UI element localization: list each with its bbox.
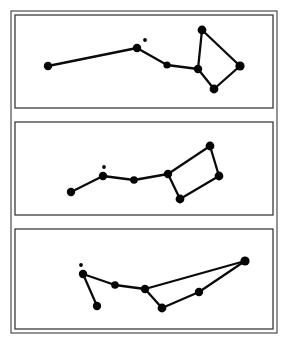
star-node-merak xyxy=(215,172,224,181)
star-node-alioth xyxy=(111,281,119,289)
star-companion-alcor xyxy=(102,165,106,169)
star-diagram-canvas xyxy=(0,0,289,348)
panels-group xyxy=(15,15,273,329)
star-panel-panel-middle xyxy=(15,122,273,215)
star-node-mizar xyxy=(79,270,87,278)
star-node-megrez xyxy=(164,170,172,178)
panel-border-panel-bottom xyxy=(15,229,273,329)
star-panel-panel-top xyxy=(15,15,273,108)
star-node-alkaid xyxy=(44,62,52,70)
star-node-mizar xyxy=(133,44,141,52)
star-node-phecda xyxy=(158,304,167,313)
star-node-dubhe xyxy=(206,142,215,151)
panel-border-panel-middle xyxy=(15,122,273,215)
star-node-megrez xyxy=(194,65,202,73)
star-node-dubhe xyxy=(240,256,249,265)
star-node-phecda xyxy=(210,85,219,94)
star-companion-alcor xyxy=(79,263,83,267)
star-node-alioth xyxy=(163,61,170,68)
star-node-alkaid xyxy=(93,302,101,310)
star-node-phecda xyxy=(176,195,185,204)
star-panel-panel-bottom xyxy=(15,229,273,329)
star-node-megrez xyxy=(141,285,149,293)
star-node-merak xyxy=(235,61,244,70)
star-companion-alcor xyxy=(143,38,147,42)
star-node-mizar xyxy=(99,172,107,180)
star-node-dubhe xyxy=(198,26,207,35)
star-node-alioth xyxy=(130,176,138,184)
star-node-merak xyxy=(195,288,203,296)
star-figure xyxy=(0,0,289,348)
star-node-alkaid xyxy=(67,188,75,196)
